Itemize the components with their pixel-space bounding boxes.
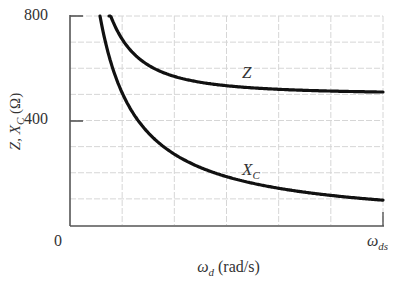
xc-label-main: X — [242, 160, 252, 179]
xc-curve-label: XC — [242, 160, 260, 181]
z-curve-label: Z — [242, 63, 251, 83]
y-axis-label-unit: (Ω) — [7, 93, 23, 118]
omega-symbol: ω — [367, 232, 378, 249]
y-tick-800: 800 — [24, 6, 48, 24]
omega-ds-subscript: ds — [378, 240, 388, 252]
x-tick-origin: 0 — [54, 232, 62, 250]
x-tick-omega-ds: ωds — [367, 232, 388, 252]
grid-lines — [70, 16, 383, 225]
y-axis-label-sub: C — [14, 118, 26, 125]
x-axis-label-unit: (rad/s) — [214, 258, 260, 275]
xc-label-sub: C — [252, 169, 259, 181]
x-axis-label: ωd (rad/s) — [0, 258, 395, 278]
x-axis-label-main: ω — [197, 258, 208, 275]
y-axis-label-main: Z, X — [7, 125, 23, 150]
y-axis-label: Z, XC (Ω) — [7, 72, 26, 172]
y-tick-400: 400 — [24, 110, 48, 128]
